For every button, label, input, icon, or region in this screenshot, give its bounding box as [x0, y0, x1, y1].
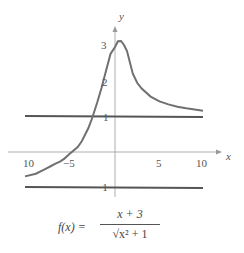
- x-axis-arrow-icon: [216, 150, 222, 155]
- formula-fraction: x + 3 √x² + 1: [100, 207, 160, 242]
- asymptote-y-1: [25, 116, 203, 117]
- y-tick-3: 3: [101, 39, 107, 51]
- x-tick-5: 5: [156, 157, 162, 169]
- x-axis-label: x: [225, 150, 231, 162]
- x-tick-minus-10: 10: [23, 157, 35, 169]
- y-tick-1: 1: [103, 111, 109, 123]
- formula-denominator: √x² + 1: [100, 227, 160, 242]
- fraction-bar: [100, 224, 160, 225]
- formula-lhs: f(x) =: [58, 220, 86, 235]
- y-tick-minus-1: −1: [96, 181, 108, 193]
- formula-numerator: x + 3: [100, 207, 160, 222]
- y-tick-2: 2: [102, 76, 108, 88]
- function-formula: f(x) = x + 3 √x² + 1: [56, 207, 196, 247]
- y-axis-label: y: [118, 10, 124, 22]
- x-tick-10: 10: [196, 157, 208, 169]
- function-curve: [25, 41, 203, 176]
- x-tick-minus-5: −5: [63, 157, 75, 169]
- y-axis-arrow-icon: [113, 26, 118, 32]
- asymptote-y-minus-1: [25, 187, 203, 188]
